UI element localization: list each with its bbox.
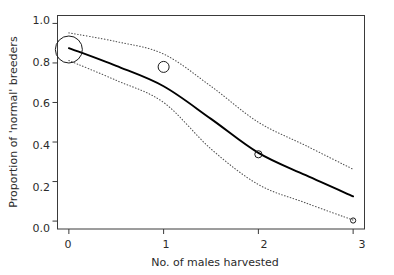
figure-background <box>0 0 394 275</box>
y-tick-label: 0.2 <box>33 181 51 194</box>
x-tick-label: 2 <box>261 238 268 251</box>
x-tick-label: 3 <box>359 238 366 251</box>
y-tick-label: 0.8 <box>33 56 51 69</box>
y-tick-label: 0.0 <box>33 222 51 235</box>
x-axis-title: No. of males harvested <box>151 256 279 269</box>
x-tick-label: 1 <box>163 238 170 251</box>
y-tick-label: 0.6 <box>33 97 51 110</box>
chart-figure: 1.0 0.8 0.6 0.4 0.2 0.0 0 1 2 3 No. of m… <box>0 0 394 275</box>
x-tick-label: 0 <box>65 238 72 251</box>
y-axis-title: Proportion of 'normal' breeders <box>7 36 20 208</box>
chart-canvas: 1.0 0.8 0.6 0.4 0.2 0.0 0 1 2 3 No. of m… <box>0 0 394 275</box>
y-tick-label: 1.0 <box>33 14 51 27</box>
y-tick-label: 0.4 <box>33 139 51 152</box>
